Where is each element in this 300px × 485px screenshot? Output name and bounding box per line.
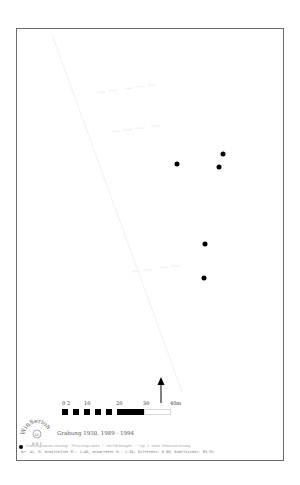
legend-caption-line2: Nr. 41, M. ermittelter M.: 1:40, erwarte…: [21, 450, 214, 454]
find-point: [221, 152, 226, 157]
find-point: [203, 242, 208, 247]
scale-bar: [62, 409, 202, 415]
find-point: [175, 162, 180, 167]
legend-bullet: [19, 445, 23, 449]
scale-tick-label: 20: [116, 400, 122, 406]
legend-caption-line1: Grabungsumzeichnung: Pfostengruben / Ver…: [26, 444, 190, 448]
scale-tick-label: 40m: [170, 400, 181, 406]
map-frame: [16, 28, 284, 461]
excavation-caption: Grabung 1930, 1989 - 1994: [57, 430, 134, 436]
north-arrow-icon: [156, 377, 166, 403]
scale-tick-label: 0: [62, 400, 65, 406]
svg-text:KG: KG: [35, 433, 40, 437]
winserion-logo: WinSerion KG 0 0 1: [19, 413, 55, 447]
find-point: [217, 165, 222, 170]
find-point: [202, 276, 207, 281]
scale-tick-label: 10: [84, 400, 90, 406]
scale-tick-label: 2: [67, 400, 70, 406]
scale-tick-label: 30: [143, 400, 149, 406]
